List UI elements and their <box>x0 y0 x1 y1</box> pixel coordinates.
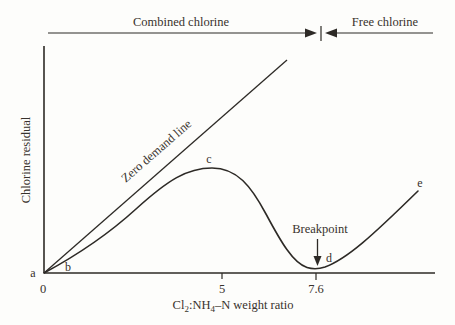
breakpoint-arrow-icon <box>314 239 322 266</box>
free-chlorine-label: Free chlorine <box>352 15 419 29</box>
x-axis-label-part: –N weight ratio <box>214 298 293 312</box>
y-axis-label: Chlorine residual <box>19 116 33 203</box>
x-tick-label-5: 5 <box>219 282 225 296</box>
x-axis-label: Cl2:NH4–N weight ratio <box>173 298 294 314</box>
breakpoint-arrowhead <box>314 256 322 266</box>
point-label-b: b <box>65 260 71 274</box>
point-label-e: e <box>417 176 422 190</box>
x-axis-label-part: Cl <box>173 298 185 312</box>
point-label-a: a <box>30 266 36 280</box>
breakpoint-label: Breakpoint <box>292 222 348 236</box>
point-label-d: d <box>326 251 332 265</box>
chlorine-residual-curve <box>44 168 418 273</box>
combined-chlorine-label: Combined chlorine <box>133 15 230 29</box>
right-arrowhead-icon <box>305 29 317 38</box>
x-tick-label-0: 0 <box>40 282 46 296</box>
breakpoint-chlorination-figure: Combined chlorine Free chlorine Chlorine… <box>0 0 455 325</box>
x-tick-label-7-6: 7.6 <box>308 282 324 296</box>
zero-demand-line <box>44 60 287 273</box>
axes <box>44 46 435 280</box>
point-label-c: c <box>206 152 211 166</box>
x-axis-label-part: :NH <box>189 298 211 312</box>
chart-canvas: Combined chlorine Free chlorine Chlorine… <box>0 0 455 325</box>
